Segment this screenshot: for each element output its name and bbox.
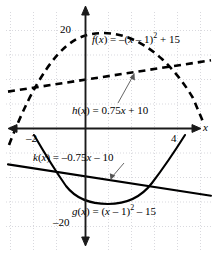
y-tick-label-20: 20 [60,24,71,35]
curve-label-h: h(x) = 0.75x + 10 [72,105,148,116]
curve-h [8,60,211,91]
label-f-tail: – 1) [133,33,153,45]
label-f-mid: ) = –( [104,33,129,45]
curve-label-k: k(x) = –0.75x – 10 [33,152,113,163]
label-g-end: – 15 [134,205,156,217]
curve-g [34,135,185,204]
label-h-end: + 10 [126,104,149,116]
y-tick-label-neg20: –20 [53,217,70,228]
label-g-tail: – 1) [110,205,130,217]
leader-line-k [110,163,124,180]
x-tick-label-neg2: –2 [26,133,37,144]
label-f-end: + 15 [157,33,180,45]
curve-k [8,164,211,195]
curve-label-g: g(x) = (x – 1)2 – 15 [72,206,156,217]
leader-line-h [118,73,135,103]
graph-figure: f(x) = –(x – 1)2 + 15 h(x) = 0.75x + 10 … [0,0,219,257]
x-axis-label: x [203,122,208,133]
curve-label-f: f(x) = –(x – 1)2 + 15 [92,34,180,45]
label-g-mid: ) = ( [86,205,105,217]
label-k-end: – 10 [91,151,113,163]
label-h-mid: ) = 0.75 [86,104,121,116]
x-tick-label-4: 4 [171,133,177,144]
label-k-mid: ) = –0.75 [46,151,86,163]
